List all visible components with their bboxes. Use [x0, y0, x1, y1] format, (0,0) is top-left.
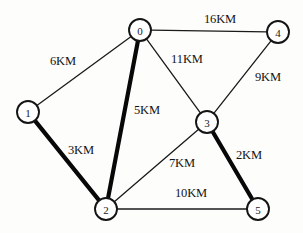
- edge-weight-label-2-5: 10KM: [175, 186, 207, 201]
- edge-1-2: [35, 121, 99, 201]
- node-label-0: 0: [137, 25, 143, 37]
- node-label-5: 5: [255, 204, 261, 216]
- edge-weight-label-1-2: 3KM: [68, 143, 94, 158]
- node-label-2: 2: [103, 204, 109, 216]
- edge-weight-label-0-4: 16KM: [204, 12, 236, 27]
- edge-weight-label-0-3: 11KM: [171, 52, 203, 67]
- edge-0-1: [37, 36, 131, 105]
- node-label-1: 1: [25, 107, 31, 119]
- graph-node-1[interactable]: 1: [17, 101, 39, 123]
- edge-0-4: [151, 30, 267, 32]
- graph-node-0[interactable]: 0: [129, 19, 151, 41]
- edge-3-5: [213, 131, 253, 199]
- edge-weight-label-2-3: 7KM: [169, 156, 195, 171]
- edge-0-2: [108, 41, 138, 198]
- node-label-3: 3: [204, 117, 210, 129]
- graph-diagram: 012345 16KM6KM11KM5KM9KM3KM7KM2KM10KM: [0, 0, 303, 233]
- edge-weight-label-0-2: 5KM: [134, 103, 160, 118]
- edge-weight-label-0-1: 6KM: [50, 54, 76, 69]
- edge-weight-label-3-5: 2KM: [236, 148, 262, 163]
- edge-weight-label-4-3: 9KM: [255, 70, 281, 85]
- graph-node-4[interactable]: 4: [267, 21, 289, 43]
- graph-node-3[interactable]: 3: [196, 111, 218, 133]
- graph-node-2[interactable]: 2: [95, 198, 117, 220]
- graph-node-5[interactable]: 5: [247, 198, 269, 220]
- node-label-4: 4: [275, 27, 281, 39]
